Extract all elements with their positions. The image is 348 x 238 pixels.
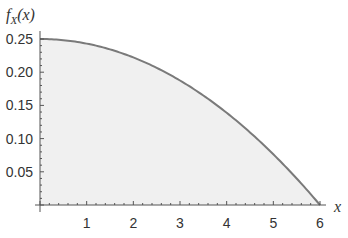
y-tick-label: 0.20 bbox=[6, 64, 33, 80]
x-tick-label: 5 bbox=[269, 215, 277, 231]
x-tick-label: 4 bbox=[223, 215, 231, 231]
area-fill bbox=[40, 39, 320, 205]
y-tick-label: 0.25 bbox=[6, 31, 33, 47]
y-axis-label: fX(x) bbox=[6, 6, 35, 26]
y-ticks: 0.050.100.150.200.25 bbox=[6, 31, 44, 205]
y-tick-label: 0.05 bbox=[6, 164, 33, 180]
x-tick-label: 1 bbox=[83, 215, 91, 231]
pdf-chart: 123456 0.050.100.150.200.25 x fX(x) bbox=[0, 0, 348, 238]
x-tick-label: 6 bbox=[316, 215, 324, 231]
x-axis-label: x bbox=[333, 198, 341, 215]
x-tick-label: 2 bbox=[129, 215, 137, 231]
x-tick-label: 3 bbox=[176, 215, 184, 231]
y-tick-label: 0.10 bbox=[6, 131, 33, 147]
y-tick-label: 0.15 bbox=[6, 97, 33, 113]
